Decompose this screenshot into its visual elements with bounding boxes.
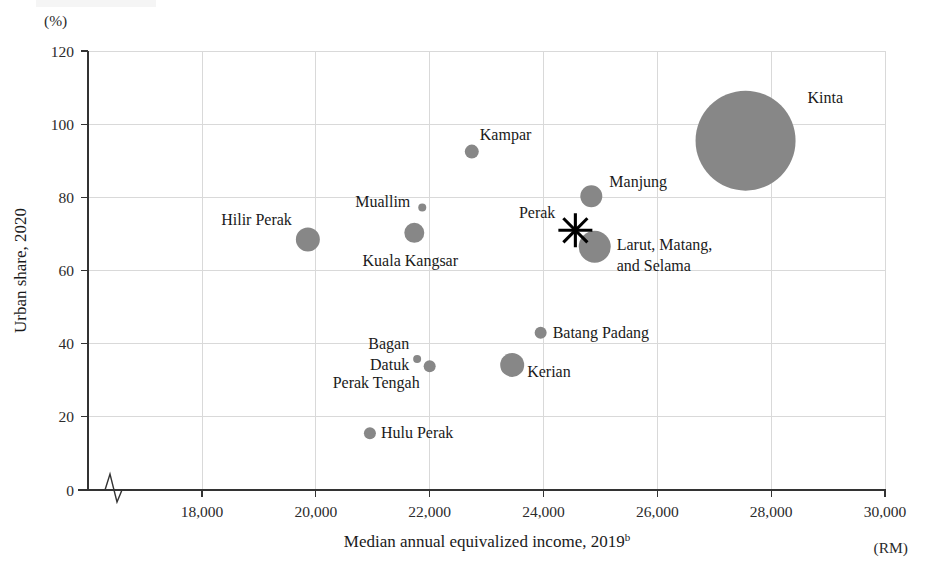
bubble-point[interactable]: Larut, Matang,and Selama — [579, 231, 713, 274]
point-label-line: Hilir Perak — [221, 211, 292, 228]
point-label: Kampar — [480, 126, 532, 144]
bubble-marker[interactable] — [465, 145, 479, 159]
point-label-line: Larut, Matang, — [617, 236, 713, 254]
bubble-marker[interactable] — [418, 204, 426, 212]
x-axis-unit: (RM) — [874, 539, 908, 557]
point-label: BaganDatuk — [368, 335, 409, 373]
bubble-point[interactable]: Kuala Kangsar — [363, 223, 459, 270]
y-tick-label: 40 — [59, 335, 75, 352]
point-label: Perak Tengah — [333, 374, 420, 392]
point-label-line: Kinta — [808, 89, 844, 106]
y-tick-label: 120 — [51, 43, 75, 60]
bubble-point[interactable]: Hilir Perak — [221, 211, 320, 251]
x-tick-label: 30,000 — [864, 503, 907, 520]
bubble-marker[interactable] — [364, 427, 376, 439]
point-label: Kerian — [527, 363, 571, 380]
point-label-line: Bagan — [368, 335, 409, 353]
bubble-point[interactable]: Hulu Perak — [364, 424, 453, 441]
bubble-point[interactable]: Muallim — [355, 193, 426, 212]
bubble-marker[interactable] — [413, 355, 421, 363]
point-label: Kuala Kangsar — [363, 252, 459, 270]
x-axis-title-text: Median annual equivalized income, 2019 — [344, 532, 625, 551]
bubble-marker[interactable] — [580, 185, 602, 207]
x-tick-label: 26,000 — [636, 503, 679, 520]
axis-titles: (%)Urban share, 2020Median annual equiva… — [11, 12, 908, 557]
bubble-marker[interactable] — [404, 223, 424, 243]
point-label-line: Datuk — [370, 356, 409, 373]
point-label-line: Batang Padang — [553, 324, 649, 342]
x-tick-label: 28,000 — [750, 503, 793, 520]
bubble-marker[interactable] — [696, 91, 796, 191]
chart-canvas: 02040608010012018,00020,00022,00024,0002… — [0, 0, 925, 568]
point-label: Batang Padang — [553, 324, 649, 342]
bubble-point[interactable]: Kampar — [465, 126, 532, 159]
y-axis-unit: (%) — [44, 12, 67, 30]
bubble-marker[interactable] — [296, 227, 320, 251]
y-tick-label: 20 — [59, 408, 75, 425]
x-tick-label: 20,000 — [295, 503, 338, 520]
point-label: Manjung — [609, 173, 667, 191]
bubble-point[interactable]: BaganDatuk — [368, 335, 421, 373]
point-label: Muallim — [355, 193, 411, 210]
point-label: Hilir Perak — [221, 211, 292, 228]
y-tick-label: 0 — [66, 482, 74, 499]
y-tick-label: 60 — [59, 262, 75, 279]
bubble-marker[interactable] — [500, 353, 524, 377]
y-axis-title: Urban share, 2020 — [11, 208, 30, 333]
y-tick-label: 100 — [51, 116, 75, 133]
x-tick-label: 22,000 — [408, 503, 451, 520]
y-tick-label: 80 — [59, 189, 75, 206]
bubble-marker[interactable] — [424, 360, 436, 372]
bubble-point[interactable]: Batang Padang — [535, 324, 649, 342]
bubble-marker[interactable] — [535, 327, 547, 339]
point-label-line: Manjung — [609, 173, 667, 191]
axis-break-symbol — [98, 474, 132, 502]
perak-marker-label: Perak — [519, 204, 555, 221]
bubble-marker[interactable] — [579, 231, 611, 263]
point-label: Kinta — [808, 89, 844, 106]
bubble-point[interactable]: Kerian — [500, 353, 571, 380]
x-tick-label: 18,000 — [181, 503, 224, 520]
bubble-point[interactable]: Manjung — [580, 173, 667, 207]
x-axis-title: Median annual equivalized income, 2019b — [344, 531, 631, 551]
bubble-point[interactable]: Kinta — [696, 89, 844, 191]
data-points: KintaKamparManjungMuallimHilir PerakKual… — [221, 89, 843, 442]
point-label-line: Kuala Kangsar — [363, 252, 459, 270]
x-tick-label: 24,000 — [522, 503, 565, 520]
point-label-line: Perak Tengah — [333, 374, 420, 392]
point-label: Hulu Perak — [381, 424, 453, 441]
point-label-line: Kampar — [480, 126, 532, 144]
point-label-line: and Selama — [617, 257, 691, 274]
point-label-line: Kerian — [527, 363, 571, 380]
point-label-line: Hulu Perak — [381, 424, 453, 441]
point-label: Larut, Matang,and Selama — [617, 236, 713, 274]
bubble-chart: 02040608010012018,00020,00022,00024,0002… — [0, 0, 925, 568]
x-axis-title-superscript: b — [625, 531, 631, 543]
point-label-line: Muallim — [355, 193, 411, 210]
